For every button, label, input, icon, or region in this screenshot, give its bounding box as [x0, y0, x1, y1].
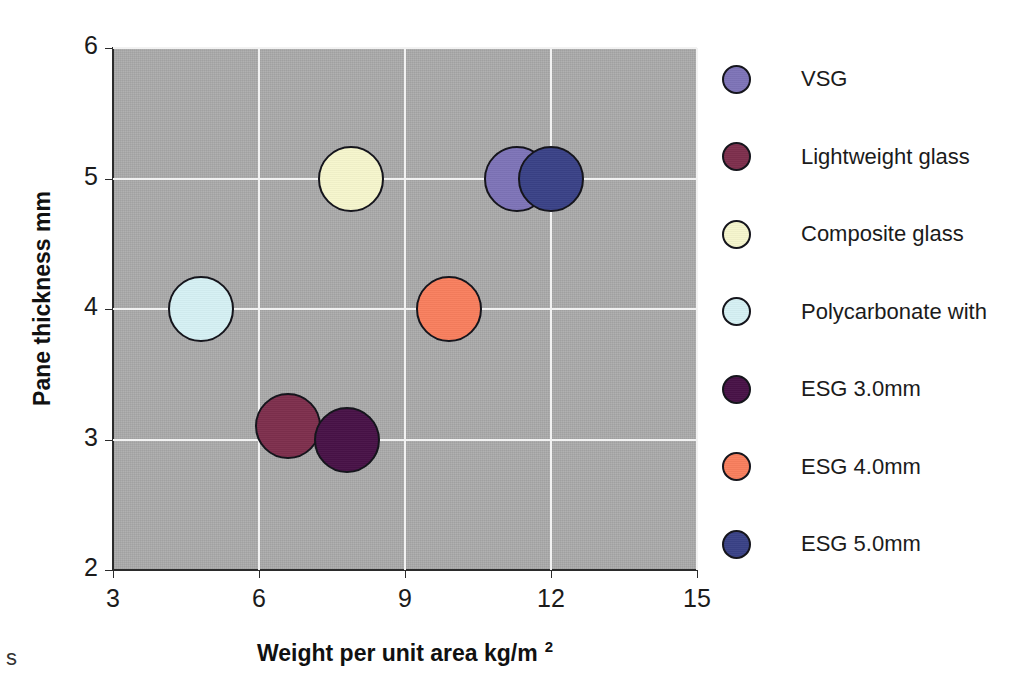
- y-axis-tick: [105, 309, 113, 310]
- x-axis-title-superscript: 2: [545, 638, 553, 655]
- legend-swatch-icon: [722, 452, 751, 481]
- x-axis-tick-label: 12: [521, 584, 581, 613]
- legend-swatch-icon: [722, 530, 751, 559]
- legend-item[interactable]: VSG: [722, 64, 1010, 94]
- y-axis-title: Pane thickness mm: [29, 89, 56, 509]
- y-axis-tick-label: 6: [38, 31, 98, 60]
- data-point-bubble[interactable]: [314, 407, 380, 473]
- legend-swatch-icon: [722, 220, 751, 249]
- legend-swatch-icon: [722, 65, 751, 94]
- y-axis-title-text: Pane thickness mm: [29, 191, 55, 406]
- legend-item-label: ESG 5.0mm: [801, 531, 921, 557]
- y-axis-tick-label: 2: [38, 553, 98, 582]
- legend-item-label: VSG: [801, 66, 847, 92]
- legend-item[interactable]: Lightweight glass: [722, 142, 1010, 172]
- chart-page: 3691215 23456 Weight per unit area kg/m2…: [0, 0, 1010, 698]
- legend-item[interactable]: ESG 5.0mm: [722, 529, 1010, 559]
- data-point-bubble[interactable]: [518, 146, 584, 212]
- plot-area: [113, 48, 697, 570]
- legend-swatch-icon: [722, 297, 751, 326]
- gridline-horizontal: [113, 47, 697, 49]
- gridline-horizontal: [113, 439, 697, 441]
- x-axis-tick: [697, 571, 698, 578]
- legend-item-label: ESG 3.0mm: [801, 376, 921, 402]
- x-axis-tick-label: 6: [229, 584, 289, 613]
- x-axis-tick: [113, 571, 114, 578]
- y-axis-tick: [105, 48, 113, 49]
- y-axis-tick: [105, 570, 113, 571]
- y-axis-tick: [105, 440, 113, 441]
- y-axis-tick: [105, 179, 113, 180]
- data-point-bubble[interactable]: [318, 146, 384, 212]
- legend-item-label: Composite glass: [801, 221, 964, 247]
- x-axis-tick-label: 15: [667, 584, 727, 613]
- x-axis-title: Weight per unit area kg/m2: [113, 638, 697, 667]
- x-axis-tick: [551, 571, 552, 578]
- legend-item[interactable]: ESG 3.0mm: [722, 374, 1010, 404]
- legend-item-label: Polycarbonate with: [801, 299, 987, 325]
- legend-item[interactable]: Composite glass: [722, 219, 1010, 249]
- legend-item-label: Lightweight glass: [801, 144, 970, 170]
- x-axis-tick: [259, 571, 260, 578]
- legend-item[interactable]: Polycarbonate with: [722, 297, 1010, 327]
- legend-item-label: ESG 4.0mm: [801, 454, 921, 480]
- data-point-bubble[interactable]: [255, 393, 321, 459]
- data-point-bubble[interactable]: [168, 276, 234, 342]
- scan-text-fragment: s: [6, 645, 17, 671]
- x-axis-tick: [405, 571, 406, 578]
- legend-swatch-icon: [722, 375, 751, 404]
- x-axis-tick-label: 9: [375, 584, 435, 613]
- chart-legend: VSGLightweight glassComposite glassPolyc…: [722, 48, 1010, 578]
- legend-item[interactable]: ESG 4.0mm: [722, 452, 1010, 482]
- data-point-bubble[interactable]: [416, 276, 482, 342]
- legend-swatch-icon: [722, 142, 751, 171]
- x-axis-title-text: Weight per unit area kg/m: [257, 640, 538, 666]
- gridline-horizontal: [113, 178, 697, 180]
